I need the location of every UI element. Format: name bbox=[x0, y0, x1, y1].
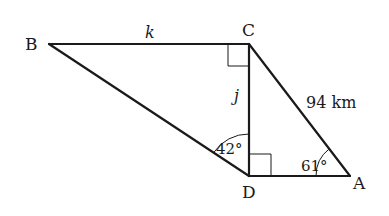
angle-label-a: 61° bbox=[301, 157, 328, 175]
side-label-k: k bbox=[145, 23, 155, 42]
diagram-svg: B C D A k j 94 km 42° 61° bbox=[0, 0, 389, 216]
right-angle-marker-c bbox=[228, 44, 249, 66]
vertex-label-c: C bbox=[242, 20, 255, 40]
right-angle-marker-d bbox=[249, 154, 271, 176]
geometry-diagram: B C D A k j 94 km 42° 61° bbox=[0, 0, 389, 216]
vertex-label-a: A bbox=[352, 173, 366, 193]
angle-label-d: 42° bbox=[216, 140, 243, 158]
side-label-j: j bbox=[231, 86, 239, 105]
vertex-label-d: D bbox=[242, 182, 256, 202]
vertex-label-b: B bbox=[25, 34, 38, 54]
side-label-94km: 94 km bbox=[306, 93, 356, 112]
